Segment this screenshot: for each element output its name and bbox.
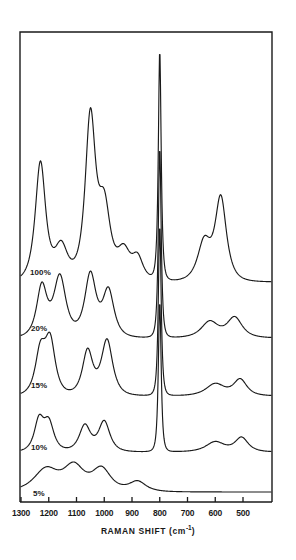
raman-spectra-figure: 1300120011001000900800700600500 100%20%1… xyxy=(0,0,296,560)
x-axis-title-close: ) xyxy=(192,526,195,536)
x-axis-title: RAMAN SHIFT (cm-1) xyxy=(0,524,296,536)
x-axis-title-main: RAMAN SHIFT (cm xyxy=(101,526,186,536)
spectra-plot-svg xyxy=(0,0,296,560)
